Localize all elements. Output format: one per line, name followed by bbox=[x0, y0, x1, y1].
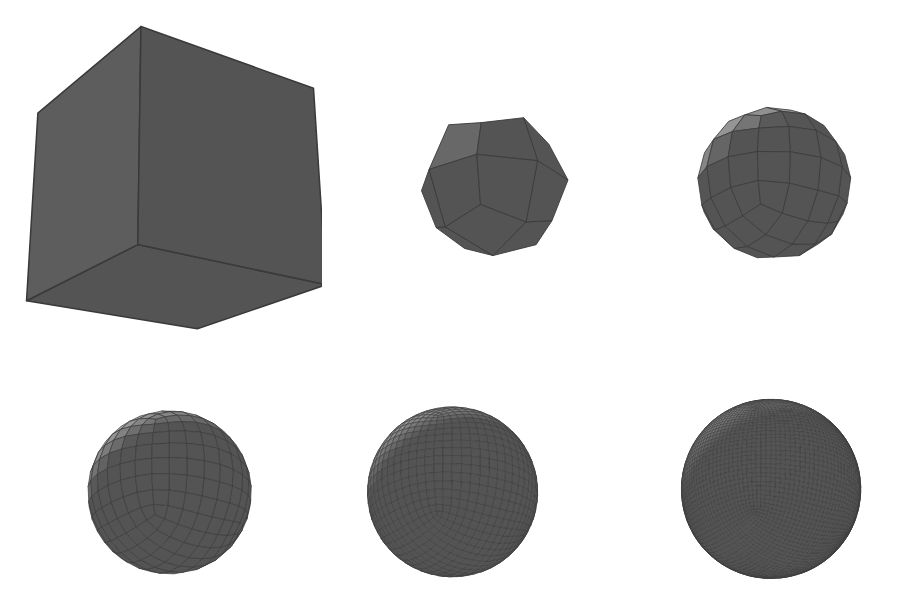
shape-panel-3 bbox=[62, 380, 277, 605]
shape-panel-5 bbox=[660, 372, 882, 606]
shape-panel-1 bbox=[388, 68, 598, 303]
shape-panel-4 bbox=[345, 378, 560, 606]
shape-panel-2 bbox=[668, 66, 880, 301]
shape-panel-0 bbox=[22, 18, 322, 368]
subdivision-figure bbox=[0, 0, 902, 611]
